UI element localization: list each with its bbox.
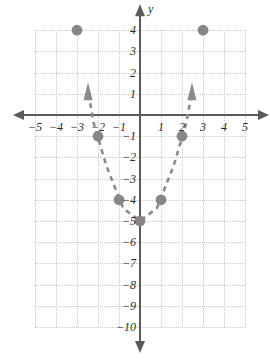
- y-tick-label: −1: [122, 130, 136, 142]
- data-point[interactable]: [156, 194, 167, 205]
- coordinate-plane: −5−4−3−2−1123454321−1−2−3−4−5−6−7−8−9−10…: [0, 0, 270, 364]
- x-axis-arrow-left: [13, 110, 24, 120]
- y-axis-arrow-up: [135, 4, 145, 16]
- curve-arrow-right: [187, 82, 196, 100]
- y-tick-label: −5: [122, 215, 136, 227]
- data-point[interactable]: [198, 25, 209, 36]
- x-tick-label: −4: [49, 121, 63, 133]
- y-axis-arrow-down: [135, 341, 145, 353]
- y-tick-label: −10: [116, 321, 136, 333]
- y-tick-label: −2: [122, 151, 136, 163]
- y-tick-label: −9: [122, 300, 136, 312]
- data-point[interactable]: [135, 216, 146, 227]
- x-tick-label: 3: [200, 121, 206, 133]
- y-tick-label: −8: [122, 279, 136, 291]
- x-tick-label: −2: [91, 121, 105, 133]
- y-tick-label: −6: [122, 236, 136, 248]
- x-tick-label: −3: [70, 121, 84, 133]
- x-tick-label: 2: [179, 121, 185, 133]
- y-tick-label: −4: [122, 194, 136, 206]
- y-tick-label: 1: [130, 88, 136, 100]
- x-tick-label: −5: [28, 121, 42, 133]
- y-tick-label: 2: [130, 67, 136, 79]
- x-tick-label: 1: [158, 121, 164, 133]
- y-tick-label: 3: [130, 45, 136, 57]
- y-tick-label: −3: [122, 173, 136, 185]
- dashed-curve: [89, 94, 192, 221]
- y-axis-label: y: [148, 3, 153, 15]
- x-tick-label: 4: [221, 121, 227, 133]
- data-point[interactable]: [72, 25, 83, 36]
- y-tick-label: −7: [122, 257, 136, 269]
- x-axis-arrow-right: [258, 110, 269, 120]
- x-tick-label: 5: [242, 121, 248, 133]
- y-tick-label: 4: [130, 24, 136, 36]
- curve-arrow-left: [84, 82, 93, 100]
